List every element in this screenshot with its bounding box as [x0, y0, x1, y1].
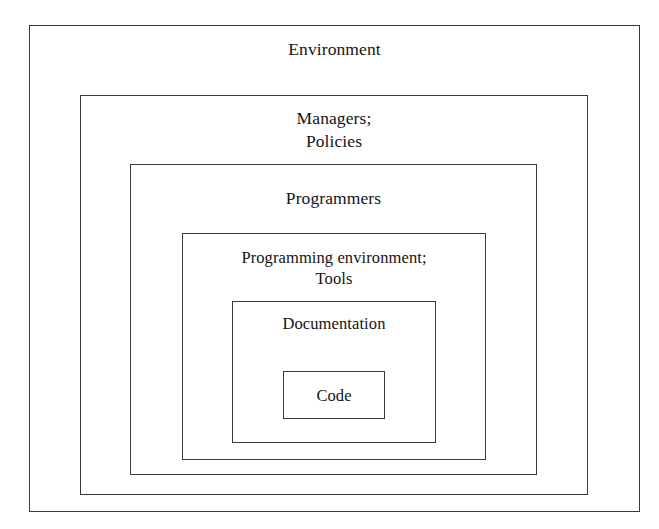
- diagram-canvas: Environment Managers; Policies Programme…: [0, 0, 659, 529]
- layer-box-code: Code: [283, 371, 385, 419]
- layer-label-managers-policies: Managers; Policies: [81, 107, 587, 153]
- layer-label-programming-environment-tools: Programming environment; Tools: [183, 247, 485, 290]
- layer-label-programmers: Programmers: [131, 187, 536, 210]
- layer-label-code: Code: [284, 385, 384, 406]
- layer-label-environment: Environment: [30, 38, 639, 61]
- layer-label-documentation: Documentation: [233, 313, 435, 334]
